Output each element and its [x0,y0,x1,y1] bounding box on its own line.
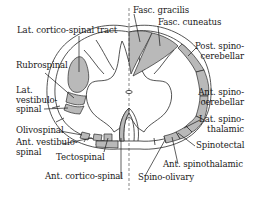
label-lat-cortico-spinal: Lat. cortico-spinal tract [17,26,117,36]
label-rubrospinal: Rubrospinal [16,61,68,71]
label-ant-spino-cerebellar: Ant. spino- cerebellar [198,88,244,107]
lat-cortico-spinal-tract [68,57,89,93]
label-lat-spino-thalamic: Lat. spino- thalamic [199,115,244,134]
label-fasc-gracilis: Fasc. gracilis [133,6,189,16]
label-lat-vestibulo-spinal: Lat. vestibulo- spinal [16,86,57,115]
label-ant-cortico-spinal: Ant. cortico-spinal [45,172,123,182]
ant-cortico-spinal-tract [119,108,129,141]
label-post-spino-cerebellar: Post. spino- cerebellar [195,42,244,61]
label-ant-spinothalamic: Ant. spinothalamic [163,160,243,170]
dorsal-partition-left [96,40,114,70]
label-spino-olivary: Spino-olivary [138,173,194,183]
label-tectospinal: Tectospinal [56,153,105,163]
spinal-cord-diagram: Lat. cortico-spinal tract Rubrospinal La… [0,0,258,199]
label-fasc-cuneatus: Fasc. cuneatus [158,18,221,28]
ant-vestibulo-spinal-tract [93,134,102,141]
lat-vestibulo-spinal-tract [64,104,84,114]
label-olivospinal: Olivospinal [16,126,64,136]
tectospinal-tract [104,134,112,141]
label-spinotectal: Spinotectal [196,141,244,151]
